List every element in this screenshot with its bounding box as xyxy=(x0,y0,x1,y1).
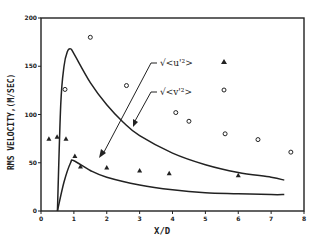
x-tick-label: 8 xyxy=(302,215,306,222)
y-axis-ticks: 050100150200 xyxy=(24,14,41,214)
x-tick-label: 7 xyxy=(269,215,273,222)
triangle-marker-icon xyxy=(72,153,77,158)
x-tick-label: 4 xyxy=(170,215,174,222)
curve-line xyxy=(57,160,284,211)
triangle-marker-icon xyxy=(137,168,142,173)
triangle-marker-icon xyxy=(46,136,51,141)
circle-marker-icon xyxy=(124,84,128,88)
annotation-u-label: √<u'²> xyxy=(160,58,193,68)
y-tick-label: 100 xyxy=(24,111,37,118)
circle-marker-icon xyxy=(63,87,67,91)
annotations: √<u'²> √<v'²> xyxy=(99,58,227,158)
circle-marker-icon xyxy=(88,35,92,39)
x-tick-label: 3 xyxy=(138,215,142,222)
annotation-leader-u xyxy=(104,63,157,152)
triangle-marker-icon xyxy=(63,136,68,141)
x-tick-label: 6 xyxy=(236,215,240,222)
curves xyxy=(57,49,284,211)
triangle-marker-icon xyxy=(167,171,172,176)
x-axis-ticks: 012345678 xyxy=(39,211,306,222)
rms-velocity-chart: 050100150200 012345678 RMS VELOCITY,(M/S… xyxy=(0,0,317,240)
y-tick-label: 0 xyxy=(33,207,37,214)
y-tick-label: 50 xyxy=(29,159,37,166)
y-axis-label: RMS VELOCITY,(M/SEC) xyxy=(7,74,16,170)
circle-marker-icon xyxy=(256,138,260,142)
circle-marker-icon xyxy=(223,132,227,136)
x-tick-label: 0 xyxy=(39,215,43,222)
x-tick-label: 2 xyxy=(105,215,109,222)
x-axis-label: X/D xyxy=(154,226,171,236)
y-tick-label: 150 xyxy=(24,62,37,69)
annotation-leader-v xyxy=(135,92,157,121)
curve-line xyxy=(57,49,284,211)
triangle-marker-icon xyxy=(104,165,109,170)
annotation-v-label: √<v'²> xyxy=(160,87,192,97)
legend-circle-icon xyxy=(222,88,226,92)
plot-frame xyxy=(41,18,304,211)
data-points xyxy=(46,35,292,177)
circle-marker-icon xyxy=(174,111,178,115)
x-tick-label: 5 xyxy=(203,215,207,222)
x-tick-label: 1 xyxy=(72,215,76,222)
y-tick-label: 200 xyxy=(24,14,37,21)
legend-triangle-icon xyxy=(221,59,227,64)
circle-marker-icon xyxy=(187,119,191,123)
circle-marker-icon xyxy=(289,150,293,154)
